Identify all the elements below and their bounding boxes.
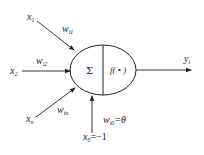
bias-input-label: x0=−1 [82, 131, 107, 143]
input-label-n: xn [25, 113, 33, 125]
bias-weight-label: wi0=θ [103, 114, 126, 126]
output-label: yi [183, 53, 190, 65]
input-arrow-n [36, 88, 75, 117]
weight-label-1: wi1 [62, 23, 73, 35]
sum-symbol: Σ [86, 65, 93, 76]
input-label-2: x2 [9, 65, 17, 77]
activation-function: f( • ) [110, 65, 126, 75]
neuron-diagram: Σ f( • ) x1 wi1 x2 wi2 xn win x0=−1 wi0=… [0, 0, 204, 155]
weight-label-2: wi2 [36, 55, 47, 67]
weight-label-n: win [57, 104, 68, 116]
input-label-1: x1 [26, 11, 34, 23]
